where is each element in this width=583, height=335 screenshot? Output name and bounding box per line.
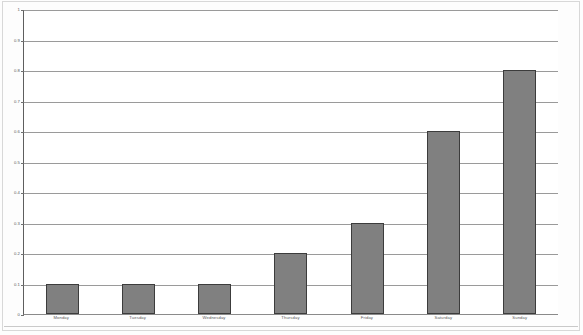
x-axis-tick-label: Friday xyxy=(361,316,373,320)
y-axis-tick-label: 1 xyxy=(18,8,20,12)
bar-slot xyxy=(100,10,176,314)
bar-slot xyxy=(482,10,558,314)
bar[interactable] xyxy=(122,284,155,315)
y-axis-tick-label: 0 xyxy=(18,313,20,317)
x-axis-tick-label: Saturday xyxy=(435,316,453,320)
bar-slot xyxy=(24,10,100,314)
bar[interactable] xyxy=(274,253,307,314)
x-axis-tick-label: Monday xyxy=(53,316,69,320)
x-axis-tick-label: Sunday xyxy=(512,316,527,320)
x-axis-tick-labels: MondayTuesdayWednesdayThursdayFridaySatu… xyxy=(23,316,558,326)
chart-screenshot: 10.90.80.70.60.50.40.30.20.10 MondayTues… xyxy=(0,0,583,335)
x-label-slot: Friday xyxy=(329,316,405,326)
x-axis-tick-label: Wednesday xyxy=(203,316,226,320)
y-axis-tick-label: 0.3 xyxy=(14,221,20,225)
y-axis-tick-label: 0.4 xyxy=(14,191,20,195)
bar[interactable] xyxy=(503,70,536,314)
y-axis-tick-label: 0.9 xyxy=(14,38,20,42)
y-axis-tick-label: 0.7 xyxy=(14,99,20,103)
x-label-slot: Sunday xyxy=(482,316,558,326)
bar-series xyxy=(24,10,558,314)
y-axis-tick-label: 0.6 xyxy=(14,130,20,134)
baseline-rule xyxy=(4,326,578,327)
plot-area xyxy=(23,10,558,315)
x-axis-tick-label: Thursday xyxy=(281,316,299,320)
x-label-slot: Monday xyxy=(23,316,99,326)
bar[interactable] xyxy=(351,223,384,315)
bar[interactable] xyxy=(198,284,231,315)
x-label-slot: Wednesday xyxy=(176,316,252,326)
bar-slot xyxy=(177,10,253,314)
bar-slot xyxy=(405,10,481,314)
y-axis-tick-label: 0.8 xyxy=(14,69,20,73)
bar[interactable] xyxy=(46,284,79,315)
x-axis-tick-label: Tuesday xyxy=(129,316,146,320)
y-axis-tick-label: 0.5 xyxy=(14,160,20,164)
x-label-slot: Saturday xyxy=(405,316,481,326)
bar[interactable] xyxy=(427,131,460,314)
bar-slot xyxy=(329,10,405,314)
bar-chart: 10.90.80.70.60.50.40.30.20.10 MondayTues… xyxy=(0,0,583,335)
bar-slot xyxy=(253,10,329,314)
y-axis-tick-label: 0.1 xyxy=(14,282,20,286)
y-axis-tick-labels: 10.90.80.70.60.50.40.30.20.10 xyxy=(0,10,22,315)
x-label-slot: Thursday xyxy=(252,316,328,326)
x-label-slot: Tuesday xyxy=(99,316,175,326)
y-axis-tick-label: 0.2 xyxy=(14,252,20,256)
